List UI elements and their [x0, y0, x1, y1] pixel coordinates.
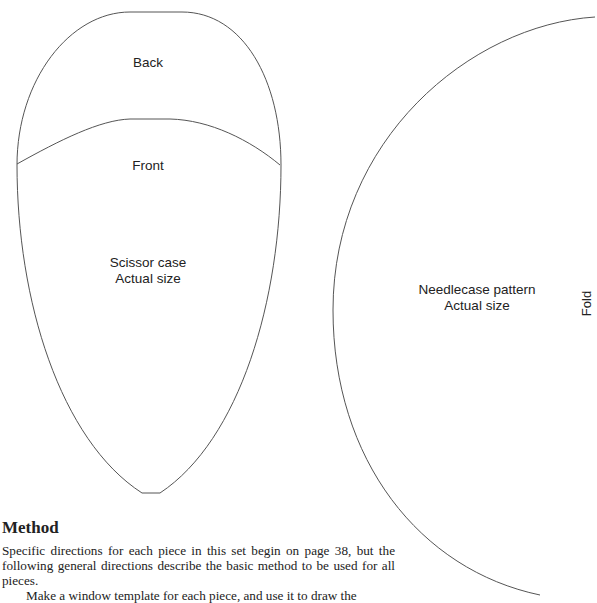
- scissor-case-title-line1: Scissor case: [88, 254, 208, 271]
- method-body: Specific directions for each piece in th…: [2, 543, 395, 603]
- fold-label: Fold: [579, 291, 594, 316]
- scissor-case-title-line2: Actual size: [88, 270, 208, 287]
- scissor-case-front-label: Front: [118, 157, 178, 174]
- needlecase-title-line1: Needlecase pattern: [412, 281, 542, 298]
- needlecase-title-line2: Actual size: [412, 297, 542, 314]
- method-paragraph-1: Specific directions for each piece in th…: [2, 543, 395, 588]
- scissor-case-back-label: Back: [118, 54, 178, 71]
- method-paragraph-2: Make a window template for each piece, a…: [2, 588, 395, 603]
- scissor-case-outline: [17, 12, 281, 493]
- method-heading: Method: [2, 518, 59, 538]
